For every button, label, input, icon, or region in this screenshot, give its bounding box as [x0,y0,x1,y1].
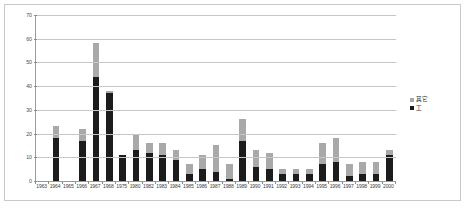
x-axis-tick-mark [102,181,103,184]
bar-column[interactable] [333,138,339,181]
x-axis-tick-mark [142,181,143,184]
bar-column[interactable] [306,169,312,181]
gridline [36,110,396,111]
y-axis-tick-mark [34,134,37,135]
bar-segment [186,174,192,181]
bar-segment [53,126,59,138]
bar-segment [213,172,219,181]
legend-label: 其它 [416,97,428,103]
x-axis-tick-mark [328,181,329,184]
y-axis-tick-mark [34,86,37,87]
bar-segment [199,169,205,181]
bar-column[interactable] [213,145,219,181]
y-axis: 010203040506070 [5,15,32,185]
bar-column[interactable] [253,150,259,181]
bar-segment [93,77,99,181]
gridline [36,15,396,16]
legend-item[interactable]: 工 [410,106,458,112]
bar-segment [359,162,365,174]
bar-segment [266,169,272,181]
x-axis-tick-mark [262,181,263,184]
bar-column[interactable] [173,150,179,181]
bar-column[interactable] [146,143,152,181]
gridline [36,157,396,158]
bar-column[interactable] [359,162,365,181]
x-axis-tick-mark [182,181,183,184]
bar-segment [106,93,112,181]
x-axis-tick-label: 2000 [377,184,399,189]
bar-segment [133,150,139,181]
y-axis-tick-label: 30 [6,108,32,113]
bar-column[interactable] [93,43,99,181]
bar-column[interactable] [319,143,325,181]
x-axis-tick-mark [275,181,276,184]
chart-frame: 010203040506070 196319641965196619671968… [4,4,461,201]
x-axis-tick-mark [342,181,343,184]
bar-column[interactable] [106,91,112,181]
legend-swatch-icon [410,106,414,110]
bar-segment [359,174,365,181]
x-axis-tick-mark [35,181,36,184]
bar-segment [79,129,85,141]
gridline [36,39,396,40]
y-axis-tick-mark [34,110,37,111]
bar-column[interactable] [239,119,245,181]
x-axis-tick-mark [395,181,396,184]
x-axis-tick-mark [208,181,209,184]
x-axis-tick-mark [168,181,169,184]
bar-column[interactable] [279,169,285,181]
bar-segment [279,174,285,181]
x-axis-tick-mark [128,181,129,184]
x-axis-tick-mark [382,181,383,184]
y-axis-tick-label: 50 [6,60,32,65]
bar-column[interactable] [186,164,192,181]
bar-column[interactable] [119,155,125,181]
bar-segment [79,141,85,181]
legend-label: 工 [416,106,422,112]
bar-segment [186,164,192,173]
y-axis-tick-mark [34,15,37,16]
bar-segment [293,174,299,181]
bar-segment [213,145,219,171]
bar-segment [373,162,379,174]
x-axis-tick-mark [75,181,76,184]
bar-column[interactable] [159,143,165,181]
bar-segment [173,160,179,181]
x-axis-tick-mark [88,181,89,184]
bar-segment [159,155,165,181]
bar-column[interactable] [346,164,352,181]
bar-column[interactable] [199,155,205,181]
x-axis-tick-mark [115,181,116,184]
x-axis-tick-mark [235,181,236,184]
y-axis-tick-mark [34,157,37,158]
bar-segment [119,155,125,181]
bar-column[interactable] [386,150,392,181]
bar-segment [239,141,245,181]
x-axis-tick-mark [248,181,249,184]
x-axis-tick-mark [355,181,356,184]
bar-segment [386,155,392,181]
y-axis-tick-label: 40 [6,84,32,89]
y-axis-tick-label: 70 [6,13,32,18]
x-axis-labels: 1963196419651966196719681975198019821983… [35,184,395,196]
bar-column[interactable] [79,129,85,181]
x-axis-tick-mark [315,181,316,184]
x-axis-tick-mark [222,181,223,184]
bar-column[interactable] [373,162,379,181]
bar-segment [53,138,59,181]
legend-swatch-icon [410,98,414,102]
bar-segment [253,167,259,181]
bar-segment [306,174,312,181]
bar-segment [159,143,165,155]
bar-column[interactable] [226,164,232,181]
x-axis-tick-mark [302,181,303,184]
gridline [36,62,396,63]
x-axis-tick-mark [195,181,196,184]
bar-column[interactable] [53,126,59,181]
plot-area [35,15,396,182]
bar-column[interactable] [293,169,299,181]
bar-segment [333,138,339,162]
y-axis-tick-mark [34,62,37,63]
x-axis-tick-mark [62,181,63,184]
legend-item[interactable]: 其它 [410,97,458,103]
